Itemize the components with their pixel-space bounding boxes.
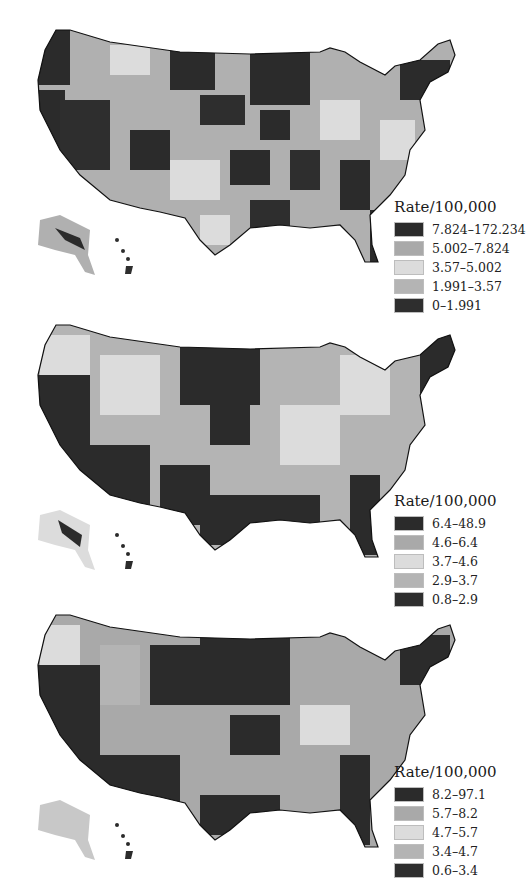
legend-title: Rate/100,000 xyxy=(394,763,497,781)
legend-swatch xyxy=(394,806,424,821)
legend-item: 0.6–3.4 xyxy=(394,861,497,880)
legend-swatch xyxy=(394,535,424,550)
legend-map-c: Rate/100,000 8.2–97.1 5.7–8.2 4.7–5.7 3.… xyxy=(394,763,497,880)
legend-swatch xyxy=(394,222,424,237)
legend-item: 8.2–97.1 xyxy=(394,785,497,804)
map-panel-c: Rate/100,000 8.2–97.1 5.7–8.2 4.7–5.7 3.… xyxy=(0,585,525,884)
legend-item: 7.824–172.234 xyxy=(394,220,526,239)
legend-item: 3.4–4.7 xyxy=(394,842,497,861)
legend-item: 6.4–48.9 xyxy=(394,514,497,533)
legend-swatch xyxy=(394,844,424,859)
legend-swatch xyxy=(394,279,424,294)
hawaii-inset xyxy=(115,533,133,569)
alaska-inset xyxy=(38,510,95,570)
legend-swatch xyxy=(394,825,424,840)
map-panel-a: Rate/100,000 7.824–172.234 5.002–7.824 3… xyxy=(0,0,525,300)
hawaii-inset xyxy=(115,238,133,274)
legend-item: 5.002–7.824 xyxy=(394,239,526,258)
legend-item: 1.991–3.57 xyxy=(394,277,526,296)
legend-item: 4.7–5.7 xyxy=(394,823,497,842)
legend-swatch xyxy=(394,787,424,802)
legend-swatch xyxy=(394,516,424,531)
legend-item: 3.57–5.002 xyxy=(394,258,526,277)
legend-swatch xyxy=(394,241,424,256)
legend-item: 3.7–4.6 xyxy=(394,552,497,571)
map-panel-b: Rate/100,000 6.4–48.9 4.6–6.4 3.7–4.6 2.… xyxy=(0,295,525,595)
hawaii-inset xyxy=(115,823,133,859)
alaska-inset xyxy=(38,215,95,275)
legend-swatch xyxy=(394,554,424,569)
legend-item: 5.7–8.2 xyxy=(394,804,497,823)
legend-swatch xyxy=(394,863,424,878)
legend-title: Rate/100,000 xyxy=(394,492,497,510)
alaska-inset xyxy=(38,800,95,860)
legend-item: 4.6–6.4 xyxy=(394,533,497,552)
legend-swatch xyxy=(394,260,424,275)
legend-title: Rate/100,000 xyxy=(394,198,526,216)
